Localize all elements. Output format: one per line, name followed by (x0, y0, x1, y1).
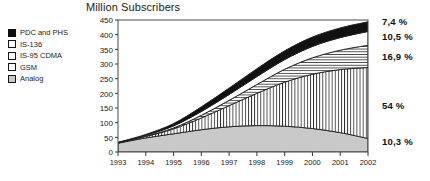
y-axis-ticks: 050100150200250300350400450 (100, 16, 118, 157)
percent-label-is-95-cdma: 16,9 % (382, 51, 413, 62)
y-tick-label: 300 (100, 60, 114, 69)
x-tick-label: 1995 (165, 158, 182, 167)
y-tick-label: 350 (100, 46, 114, 55)
plot-area: 050100150200250300350400450 199319941995… (0, 0, 430, 181)
y-tick-label: 450 (100, 16, 114, 25)
x-axis-ticks: 1993199419951996199719981999200020012002 (110, 152, 377, 167)
y-tick-label: 400 (100, 31, 114, 40)
series-layers (118, 22, 368, 152)
x-tick-label: 1996 (193, 158, 210, 167)
y-tick-label: 50 (104, 134, 113, 143)
percent-label-gsm: 54 % (382, 100, 404, 111)
chart-root: Million Subscribers PDC and PHS IS-136 I… (0, 0, 430, 181)
x-tick-label: 1997 (221, 158, 238, 167)
x-tick-label: 1993 (110, 158, 127, 167)
y-tick-label: 200 (100, 90, 114, 99)
y-tick-label: 100 (100, 119, 114, 128)
x-tick-label: 1999 (276, 158, 293, 167)
x-tick-label: 1998 (249, 158, 266, 167)
y-tick-label: 150 (100, 104, 114, 113)
x-tick-label: 1994 (137, 158, 154, 167)
x-tick-label: 2002 (360, 158, 377, 167)
percent-label-pdc-phs: 7,4 % (382, 16, 407, 27)
y-tick-label: 0 (109, 148, 114, 157)
percent-label-analog: 10,3 % (382, 136, 413, 147)
x-tick-label: 2000 (304, 158, 321, 167)
x-tick-label: 2001 (332, 158, 349, 167)
percent-label-is-136: 10,5 % (382, 31, 413, 42)
y-tick-label: 250 (100, 75, 114, 84)
